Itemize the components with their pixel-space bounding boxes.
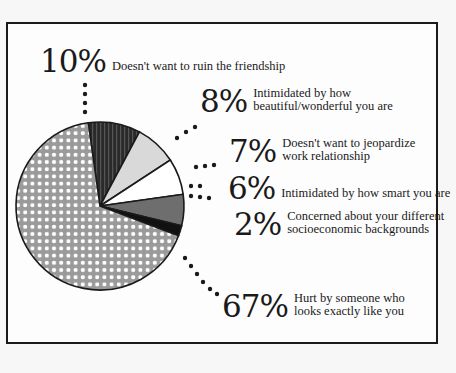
label-8: 8% Intimidated by how beautiful/wonderfu…	[200, 87, 393, 115]
label-67: 67% Hurt by someone who looks exactly li…	[222, 292, 405, 320]
pct-67: 67%	[222, 292, 288, 320]
pct-2: 2%	[234, 210, 281, 238]
label-10: 10% Doesn't want to ruin the friendship	[40, 47, 285, 75]
text-2-line2: socioeconomic backgrounds	[287, 223, 444, 236]
text-8-line2: beautiful/wonderful you are	[253, 100, 393, 113]
pct-8: 8%	[200, 87, 247, 115]
pct-10: 10%	[40, 47, 106, 75]
text-10-line1: Doesn't want to ruin the friendship	[112, 60, 285, 73]
label-2: 2% Concerned about your different socioe…	[234, 210, 444, 238]
pie-slices	[16, 122, 184, 290]
text-67-line2: looks exactly like you	[294, 305, 405, 318]
text-6-line1: Intimidated by how smart you are	[281, 187, 450, 200]
text-7-line2: work relationship	[282, 150, 415, 163]
pct-7: 7%	[229, 137, 276, 165]
label-6: 6% Intimidated by how smart you are	[228, 174, 450, 202]
label-7: 7% Doesn't want to jeopardize work relat…	[229, 137, 415, 165]
pct-6: 6%	[228, 174, 275, 202]
